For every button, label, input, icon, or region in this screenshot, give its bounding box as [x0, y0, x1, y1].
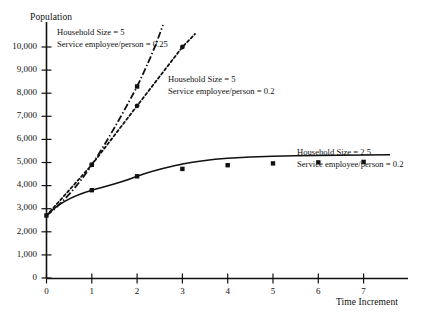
series-annotation-household-5-02: Household Size = 5 Service employee/pers…	[168, 74, 275, 97]
x-tick-label: 4	[218, 286, 238, 296]
annotation-line-2: Service employee/person = 0.2	[297, 159, 404, 171]
annotation-line-1: Household Size = 5	[57, 27, 168, 39]
y-tick-label: 6,000	[0, 133, 37, 143]
y-axis-title: Population	[30, 12, 72, 22]
series-line-household-5-02	[47, 34, 196, 216]
series-annotation-household-2-5: Household Size = 2.5 Service employee/pe…	[297, 147, 404, 170]
y-tick-label: 1,000	[0, 249, 37, 259]
y-tick-label: 4,000	[0, 179, 37, 189]
x-tick-label: 5	[263, 286, 283, 296]
x-tick-label: 3	[172, 286, 192, 296]
x-axis-title: Time Increment	[336, 297, 398, 307]
y-tick-label: 7,000	[0, 110, 37, 120]
x-tick-label: 6	[308, 286, 328, 296]
y-tick-label: 8,000	[0, 87, 37, 97]
y-tick-label: 10,000	[0, 41, 37, 51]
x-tick-label: 1	[82, 286, 102, 296]
series-annotation-household-5-025: Household Size = 5 Service employee/pers…	[57, 27, 168, 50]
y-tick-label: 3,000	[0, 202, 37, 212]
x-tick-label: 0	[37, 286, 57, 296]
x-tick-label: 2	[127, 286, 147, 296]
y-tick-label: 2,000	[0, 226, 37, 236]
annotation-line-1: Household Size = 5	[168, 74, 275, 86]
population-growth-chart: Population Time Increment 10,000 9,000 8…	[0, 0, 423, 322]
y-tick-label: 0	[0, 272, 37, 282]
y-tick-label: 5,000	[0, 156, 37, 166]
x-tick-label: 7	[354, 286, 374, 296]
annotation-line-1: Household Size = 2.5	[297, 147, 404, 159]
y-tick-label: 9,000	[0, 64, 37, 74]
annotation-line-2: Service employee/person = 0.25	[57, 39, 168, 51]
annotation-line-2: Service employee/person = 0.2	[168, 86, 275, 98]
